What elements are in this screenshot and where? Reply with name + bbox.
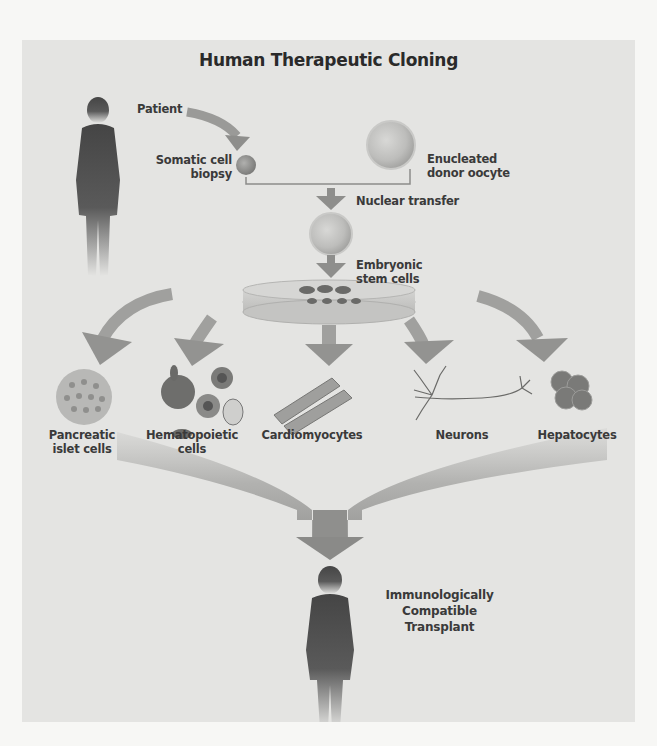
stem-cells-label: Embryonic stem cells (356, 258, 422, 286)
diagram-title: Human Therapeutic Cloning (22, 50, 635, 70)
neurons-icon (414, 366, 532, 420)
oocyte-icon (367, 121, 415, 169)
hepatocytes-icon (551, 371, 592, 410)
oocyte-label: Enucleated donor oocyte (427, 152, 510, 180)
diagram-artwork (22, 40, 635, 722)
petri-dish-icon (243, 280, 415, 324)
somatic-cell-icon (236, 155, 256, 175)
transplant-label: Immunologically Compatible Transplant (367, 587, 512, 635)
cell-type-label-hematopoietic: Hematopoietic cells (137, 428, 247, 456)
nuclear-transfer-label: Nuclear transfer (356, 194, 459, 208)
dish-arrow-icon (316, 263, 346, 278)
reconstructed-cell-icon (310, 213, 352, 255)
cell-type-label-hepatocytes: Hepatocytes (527, 428, 627, 442)
cell-type-label-cardiomyocytes: Cardiomyocytes (252, 428, 372, 442)
patient-arrow-icon (187, 112, 237, 136)
nuclear-transfer-arrow-icon (316, 196, 346, 210)
patient-label: Patient (137, 102, 182, 116)
somatic-cell-label: Somatic cell biopsy (122, 153, 232, 181)
connector-line (246, 169, 410, 184)
diagram-panel: Human Therapeutic Cloning Patient Somati… (22, 40, 635, 722)
cardiomyocytes-icon (274, 378, 352, 435)
cell-type-label-pancreatic: Pancreatic islet cells (32, 428, 132, 456)
cell-type-label-neurons: Neurons (422, 428, 502, 442)
recipient-silhouette-icon (306, 566, 354, 722)
patient-silhouette-icon (76, 97, 120, 276)
pancreatic-islet-cells-icon (56, 369, 112, 425)
transplant-arrow-icon (296, 537, 364, 560)
